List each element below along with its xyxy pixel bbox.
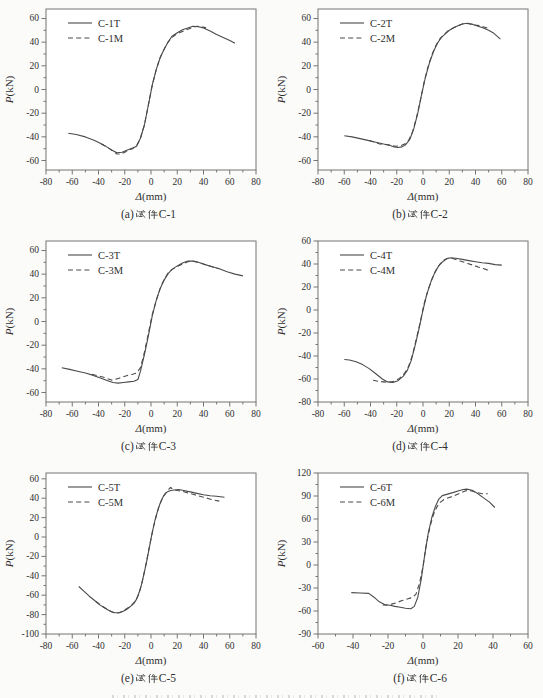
y-tick-label: -30 <box>298 583 311 593</box>
y-tick-label: 60 <box>301 236 311 246</box>
x-tick-label: 60 <box>523 641 533 651</box>
y-tick-label: 60 <box>30 474 40 484</box>
x-tick-label: 80 <box>523 177 533 187</box>
x-tick-label: -40 <box>364 409 377 419</box>
x-axis-label: Δ(mm) <box>406 190 438 203</box>
y-axis-label: P(kN) <box>275 75 288 104</box>
y-tick-label: 20 <box>30 61 40 71</box>
x-tick-label: 40 <box>199 641 209 651</box>
y-axis-label: P(kN) <box>275 307 288 336</box>
cjk-char-jian <box>147 209 158 220</box>
cjk-char-shi <box>135 209 146 220</box>
figure-grid: -80-60-40-20020406080-60-40-200204060Δ(m… <box>0 0 543 694</box>
y-tick-label: 0 <box>306 305 311 315</box>
x-axis-label: Δ(mm) <box>135 190 167 203</box>
x-tick-label: -60 <box>66 409 79 419</box>
x-tick-label: 80 <box>251 409 261 419</box>
cjk-char-shi <box>407 441 418 452</box>
x-tick-label: 20 <box>453 641 463 651</box>
x-tick-label: 40 <box>488 641 498 651</box>
y-axis-label: P(kN) <box>3 539 16 568</box>
x-tick-label: 20 <box>173 409 183 419</box>
y-tick-label: -40 <box>26 571 39 581</box>
x-tick-label: 0 <box>149 409 154 419</box>
x-tick-label: -60 <box>337 177 350 187</box>
panel-caption-a: (a) C-1 <box>95 207 176 221</box>
x-tick-label: -20 <box>390 409 403 419</box>
y-tick-label: -20 <box>298 328 311 338</box>
x-tick-label: 0 <box>149 177 154 187</box>
x-tick-label: 80 <box>251 177 261 187</box>
x-tick-label: 60 <box>497 177 507 187</box>
x-tick-label: -60 <box>311 641 324 651</box>
cjk-char-shi <box>135 441 146 452</box>
plot-area-c: -80-60-40-20020406080-60-40-200204060Δ(m… <box>0 232 271 438</box>
cjk-char-shi <box>406 673 417 684</box>
y-tick-label: -60 <box>26 590 39 600</box>
x-tick-label: -80 <box>311 409 324 419</box>
y-tick-label: -20 <box>298 108 311 118</box>
y-tick-label: 40 <box>301 37 311 47</box>
y-tick-label: 20 <box>301 61 311 71</box>
x-tick-label: -80 <box>40 177 53 187</box>
legend-label: C-5M <box>98 497 124 508</box>
x-tick-label: -20 <box>118 641 131 651</box>
cjk-char-jian <box>147 441 158 452</box>
y-tick-label: -20 <box>26 340 39 350</box>
y-tick-label: 40 <box>30 493 40 503</box>
cjk-char-shi <box>135 673 146 684</box>
y-tick-label: 40 <box>30 269 40 279</box>
y-axis-label: P(kN) <box>3 75 16 104</box>
legend-label: C-2T <box>370 18 393 29</box>
x-tick-label: -40 <box>346 641 359 651</box>
y-axis-label: P(kN) <box>3 307 16 336</box>
x-axis-label: Δ(mm) <box>406 422 438 435</box>
x-tick-label: 0 <box>420 641 425 651</box>
x-tick-label: 80 <box>523 409 533 419</box>
x-tick-label: 60 <box>225 409 235 419</box>
x-tick-label: -80 <box>40 409 53 419</box>
y-tick-label: 0 <box>306 560 311 570</box>
x-tick-label: -40 <box>92 177 105 187</box>
x-tick-label: -40 <box>92 409 105 419</box>
x-tick-label: 40 <box>470 177 480 187</box>
x-tick-label: -40 <box>364 177 377 187</box>
y-tick-label: 90 <box>301 491 311 501</box>
y-axis-label: P(kN) <box>275 539 288 568</box>
x-tick-label: -20 <box>118 177 131 187</box>
legend-label: C-4M <box>370 265 396 276</box>
y-tick-label: 0 <box>306 85 311 95</box>
x-tick-label: -60 <box>337 409 350 419</box>
x-tick-label: 60 <box>225 641 235 651</box>
panel-caption-d: (d) C-4 <box>366 439 448 453</box>
y-tick-label: -60 <box>298 606 311 616</box>
y-tick-label: -100 <box>22 629 40 639</box>
plot-area-a: -80-60-40-20020406080-60-40-200204060Δ(m… <box>0 0 271 206</box>
y-tick-label: 0 <box>34 532 39 542</box>
x-tick-label: -20 <box>118 409 131 419</box>
y-tick-label: -90 <box>298 629 311 639</box>
y-tick-label: -60 <box>298 156 311 166</box>
cjk-char-shi <box>407 209 418 220</box>
x-tick-label: 0 <box>420 177 425 187</box>
x-tick-label: 40 <box>199 409 209 419</box>
chart-panel-c: -80-60-40-20020406080-60-40-200204060Δ(m… <box>0 232 271 464</box>
x-tick-label: -60 <box>66 641 79 651</box>
plot-area-e: -80-60-40-20020406080-100-80-60-40-20020… <box>0 464 271 670</box>
y-tick-label: -60 <box>26 388 39 398</box>
x-axis-label: Δ(mm) <box>135 654 167 667</box>
chart-panel-d: -80-60-40-20020406080-80-60-40-200204060… <box>271 232 543 464</box>
legend-label: C-6M <box>370 497 396 508</box>
chart-panel-a: -80-60-40-20020406080-60-40-200204060Δ(m… <box>0 0 271 232</box>
legend-label: C-2M <box>370 33 396 44</box>
y-tick-label: 60 <box>301 13 311 23</box>
x-tick-label: -20 <box>390 177 403 187</box>
y-tick-label: 60 <box>30 245 40 255</box>
legend-label: C-5T <box>98 482 121 493</box>
panel-caption-c: (c) C-3 <box>95 439 176 453</box>
x-axis-label: Δ(mm) <box>135 422 167 435</box>
legend-label: C-3T <box>98 250 121 261</box>
legend-label: C-4T <box>370 250 393 261</box>
y-tick-label: 20 <box>30 293 40 303</box>
y-tick-label: 60 <box>301 514 311 524</box>
